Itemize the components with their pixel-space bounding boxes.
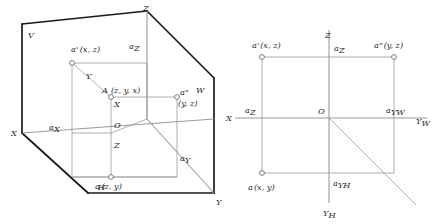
label-aY-pictorial: aY (180, 153, 192, 165)
label-point-a-unfolded: a(x, y) (248, 182, 275, 192)
label-aZ-top-unfolded: aZ (334, 43, 345, 55)
h-plane-left-edge (22, 133, 88, 193)
unfolded-view-group: Z X YW YH O a'(x, z) a"(y, z) a(x, y) aZ… (225, 30, 430, 220)
label-inner-axis-X: X (113, 99, 121, 109)
label-origin-pictorial: O (114, 120, 121, 130)
label-axis-Y-pictorial: Y (216, 197, 223, 207)
label-aYH-unfolded: aYH (333, 178, 351, 190)
label-axis-YH-unfolded: YH (323, 208, 336, 220)
label-point-a-double-prime-coords-pictorial: (y, z) (178, 98, 197, 108)
point-a-pictorial (109, 175, 114, 180)
label-axis-Z-pictorial: Z (142, 3, 149, 13)
v-plane-top-edge (22, 11, 147, 24)
label-point-a-pictorial: a(z, y) (95, 181, 122, 191)
label-point-a-prime-unfolded: a'(x, z) (252, 40, 281, 50)
label-origin-unfolded: O (318, 106, 325, 116)
point-A-pictorial (109, 95, 114, 100)
point-a-prime-unfolded (260, 55, 265, 60)
label-point-a-double-prime-unfolded: a"(y, z) (374, 40, 403, 50)
label-plane-V: V (28, 30, 35, 40)
label-aZ-pictorial: aZ (129, 41, 140, 53)
label-axis-YW-unfolded: YW (416, 116, 430, 128)
label-aYW-unfolded: aYW (386, 105, 405, 117)
label-plane-W: W (196, 85, 205, 95)
point-a-prime-pictorial (70, 61, 75, 66)
label-inner-axis-Y: Y (86, 71, 93, 81)
label-aX-pictorial: aX (49, 122, 61, 134)
label-axis-Z-unfolded: Z (324, 30, 331, 40)
point-a-double-prime-unfolded (392, 55, 397, 60)
label-aZ-left-unfolded: aZ (245, 105, 256, 117)
label-axis-X-pictorial: X (10, 128, 18, 138)
label-point-a-prime-pictorial: a'(x, z) (71, 44, 100, 54)
point-a-unfolded (260, 171, 265, 176)
orthographic-projection-figure: V H W X Y Z X Y Z O a'(x, z) A(z, y, x) … (0, 0, 437, 224)
unfolded-45-degree-line (329, 118, 416, 205)
w-plane-top-edge (147, 11, 214, 78)
label-inner-axis-Z: Z (113, 140, 120, 150)
label-axis-X-unfolded: X (225, 113, 233, 123)
label-point-A-pictorial: A(z, y, x) (101, 85, 140, 95)
pictorial-view-group: V H W X Y Z X Y Z O a'(x, z) A(z, y, x) … (10, 3, 223, 207)
label-point-a-double-prime-pictorial: a" (180, 87, 189, 97)
